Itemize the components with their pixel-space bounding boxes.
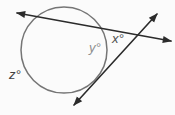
angle-label-x: x°	[111, 31, 124, 46]
angle-label-y: y°	[88, 40, 101, 55]
secant-line	[17, 13, 171, 41]
geometry-diagram: z° y° x°	[0, 0, 175, 115]
tangent-line	[74, 14, 157, 105]
circle-secant-tangent-figure: z° y° x°	[0, 0, 175, 115]
angle-label-z: z°	[8, 67, 21, 82]
